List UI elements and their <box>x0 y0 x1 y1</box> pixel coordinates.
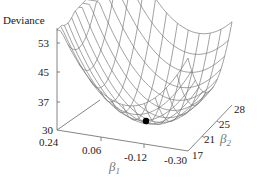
z-tick-label: 53 <box>38 37 50 49</box>
deviance-surface-plot: Deviance 53 45 37 30 0.24 0.06 -0.12 -0.… <box>0 0 258 179</box>
x-tick-label: -0.12 <box>124 151 147 163</box>
mesh-line <box>144 30 188 124</box>
z-tick-label: 30 <box>42 124 54 136</box>
z-tick-label: 37 <box>38 96 50 108</box>
y-tick-label: 28 <box>234 103 246 115</box>
mesh-line <box>177 29 221 105</box>
beta1-label: β1 <box>108 159 120 176</box>
minimum-point-marker <box>143 118 149 124</box>
y-tick-label: 17 <box>192 149 204 161</box>
mesh-line <box>64 25 195 120</box>
x-axis <box>57 130 188 151</box>
z-axis-label: Deviance <box>3 14 45 26</box>
z-tick-label: 45 <box>38 66 50 78</box>
surface-mesh <box>57 0 232 124</box>
y-tick-label: 25 <box>219 118 231 130</box>
beta2-label: β2 <box>219 131 231 148</box>
y-tick-label: 21 <box>204 133 215 145</box>
x-tick-label: 0.06 <box>82 144 102 156</box>
mesh-line <box>75 11 206 123</box>
x-tick-label: -0.30 <box>164 154 187 166</box>
mesh-line <box>101 0 232 34</box>
back-left-edge <box>57 100 100 130</box>
mesh-line <box>61 26 192 114</box>
x-tick-label: 0.24 <box>39 136 59 148</box>
